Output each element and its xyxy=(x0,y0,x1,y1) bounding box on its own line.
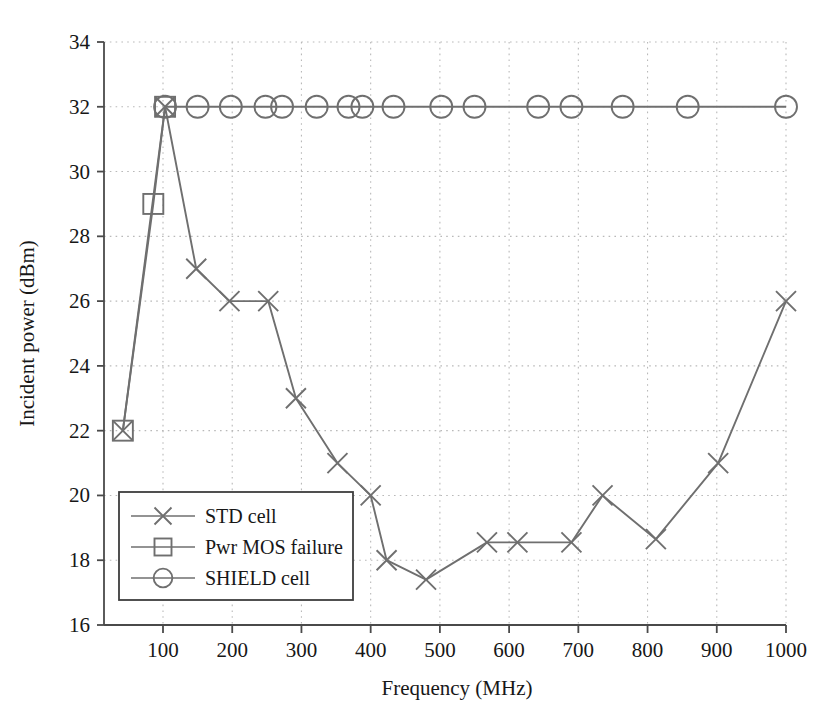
y-axis-tick-label: 34 xyxy=(69,30,91,54)
marker-x xyxy=(776,291,796,311)
marker-x xyxy=(646,529,666,549)
y-axis-tick-label: 28 xyxy=(69,224,90,248)
x-axis-tick-label: 800 xyxy=(632,638,664,662)
marker-x xyxy=(416,570,436,590)
x-axis-tick-label: 1000 xyxy=(765,638,807,662)
series-shield-cell xyxy=(154,96,797,118)
incident-power-vs-frequency-chart: 1618202224262830323410020030040050060070… xyxy=(0,0,836,712)
y-axis-tick-label: 30 xyxy=(69,160,90,184)
legend-item-label: Pwr MOS failure xyxy=(205,536,343,558)
marker-x xyxy=(286,388,306,408)
y-axis-tick-label: 16 xyxy=(69,613,90,637)
legend-item-label: SHIELD cell xyxy=(205,567,310,589)
legend-item-pwr-mos-failure[interactable]: Pwr MOS failure xyxy=(131,536,343,558)
legend[interactable]: STD cellPwr MOS failureSHIELD cell xyxy=(119,492,353,600)
y-axis-tick-label: 18 xyxy=(69,548,90,572)
y-axis-title: Incident power (dBm) xyxy=(15,240,39,427)
x-axis-tick-label: 100 xyxy=(147,638,179,662)
y-axis-tick-label: 32 xyxy=(69,95,90,119)
chart-container: 1618202224262830323410020030040050060070… xyxy=(0,0,836,712)
series-pwr-mos-failure xyxy=(113,97,175,441)
x-axis-tick-label: 400 xyxy=(355,638,387,662)
y-axis-tick-label: 20 xyxy=(69,483,90,507)
marker-x xyxy=(327,453,347,473)
x-axis-tick-label: 600 xyxy=(493,638,525,662)
x-axis-tick-label: 700 xyxy=(563,638,595,662)
y-axis-tick-label: 22 xyxy=(69,419,90,443)
x-axis-tick-label: 300 xyxy=(286,638,318,662)
y-axis-tick-label: 26 xyxy=(69,289,90,313)
y-axis-tick-label: 24 xyxy=(69,354,91,378)
x-axis-tick-label: 200 xyxy=(216,638,248,662)
x-axis-title: Frequency (MHz) xyxy=(381,676,532,700)
marker-x xyxy=(708,453,728,473)
marker-x xyxy=(377,550,397,570)
legend-item-label: STD cell xyxy=(205,505,277,527)
x-axis-tick-label: 900 xyxy=(701,638,733,662)
legend-item-shield-cell[interactable]: SHIELD cell xyxy=(131,567,310,589)
x-axis-tick-label: 500 xyxy=(424,638,456,662)
marker-x xyxy=(186,259,206,279)
series-line xyxy=(123,107,165,431)
